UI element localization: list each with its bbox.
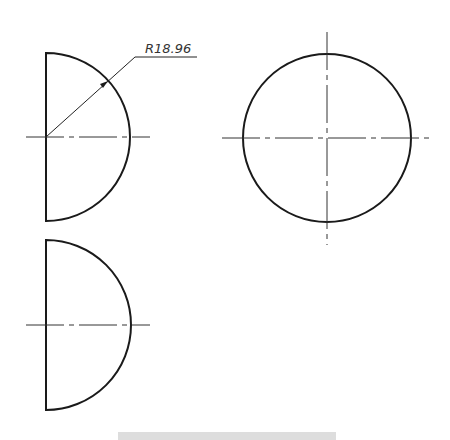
top-view — [26, 240, 150, 410]
figure-caption-cropped — [118, 432, 336, 440]
front-view: R18.96 — [26, 41, 197, 221]
radius-dimension-label: R18.96 — [145, 41, 191, 56]
drawing-canvas: R18.96 — [0, 0, 450, 440]
side-view — [222, 32, 430, 245]
radius-leader-line — [46, 57, 135, 137]
